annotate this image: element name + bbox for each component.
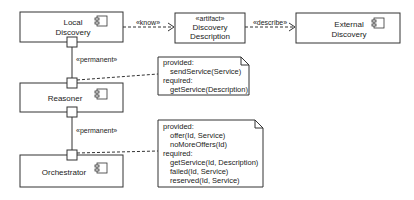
permanent-connector-top: «permanent» [72,47,117,78]
reasoner-component[interactable]: Reasoner [20,78,123,117]
note-line: provided: [163,58,194,67]
reasoner-top-port[interactable] [67,78,77,88]
external-discovery-label-line1: External [334,20,364,29]
note-line: required: [163,76,193,85]
orchestrator-interface-note: provided: offer(Id, Service) noMoreOffer… [158,120,263,187]
permanent-connector-bottom: «permanent» [72,117,117,150]
know-dependency: «know» [123,19,174,31]
local-discovery-component[interactable]: Local Discovery [20,12,123,47]
component-icon [95,89,107,99]
describe-dependency: «describe» [245,19,295,31]
discovery-description-label-line2: Description [190,32,230,41]
describe-label: «describe» [253,19,287,26]
note-line: reserved(Id, Service) [170,176,240,185]
reasoner-note-link [77,74,158,80]
permanent-label-bottom: «permanent» [76,127,117,135]
local-discovery-label-line2: Discovery [55,28,90,37]
orchestrator-label: Orchestrator [42,168,87,177]
permanent-label-top: «permanent» [76,56,117,64]
note-line: provided: [163,122,194,131]
note-line: required: [163,149,193,158]
local-discovery-port[interactable] [67,37,77,47]
reasoner-label: Reasoner [48,94,83,103]
reasoner-bottom-port[interactable] [67,107,77,117]
local-discovery-label-line1: Local [63,18,82,27]
component-icon [372,18,384,28]
reasoner-interface-note: provided: sendService(Service) required:… [158,57,249,95]
note-line: sendService(Service) [170,67,242,76]
artifact-stereotype: «artifact» [196,15,225,22]
orchestrator-component[interactable]: Orchestrator [20,150,123,187]
note-line: failed(Id, Service) [170,167,229,176]
discovery-description-artifact[interactable]: «artifact» Discovery Description [175,13,245,43]
external-discovery-component[interactable]: External Discovery [296,13,400,43]
know-label: «know» [136,19,160,26]
component-icon [95,163,107,173]
orchestrator-top-port[interactable] [67,150,77,160]
discovery-description-label-line1: Discovery [192,23,227,32]
external-discovery-label-line2: Discovery [331,30,366,39]
component-diagram: Local Discovery «know» «artifact» Discov… [0,0,414,200]
note-line: offer(Id, Service) [170,131,226,140]
orchestrator-note-link [77,151,158,153]
note-line: noMoreOffers(Id) [170,140,227,149]
note-line: getService(Id, Description) [170,158,259,167]
component-icon [95,16,107,26]
note-line: getService(Description) [170,85,248,94]
